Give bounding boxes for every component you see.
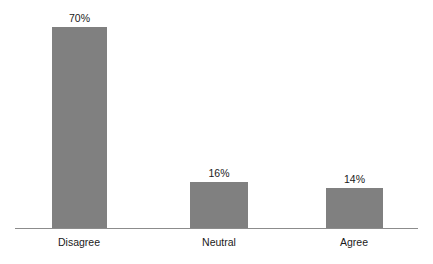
- bar-disagree[interactable]: [52, 27, 107, 229]
- plot-area: 70% 16% 14%: [0, 0, 433, 229]
- bar-group-disagree: 70%: [52, 27, 107, 229]
- category-label-agree: Agree: [340, 236, 368, 249]
- bar-agree[interactable]: [326, 188, 383, 229]
- bar-chart: 70% 16% 14% Disagree Neutral Agree: [0, 0, 433, 264]
- x-axis-category-labels: Disagree Neutral Agree: [0, 236, 433, 256]
- bar-group-neutral: 16%: [190, 182, 248, 229]
- x-axis-line: [15, 228, 418, 229]
- bar-group-agree: 14%: [326, 188, 383, 229]
- bar-neutral[interactable]: [190, 182, 248, 229]
- bar-value-label-neutral: 16%: [208, 167, 229, 179]
- bar-value-label-agree: 14%: [344, 173, 365, 185]
- bar-value-label-disagree: 70%: [69, 12, 90, 24]
- category-label-disagree: Disagree: [58, 236, 100, 249]
- category-label-neutral: Neutral: [202, 236, 236, 249]
